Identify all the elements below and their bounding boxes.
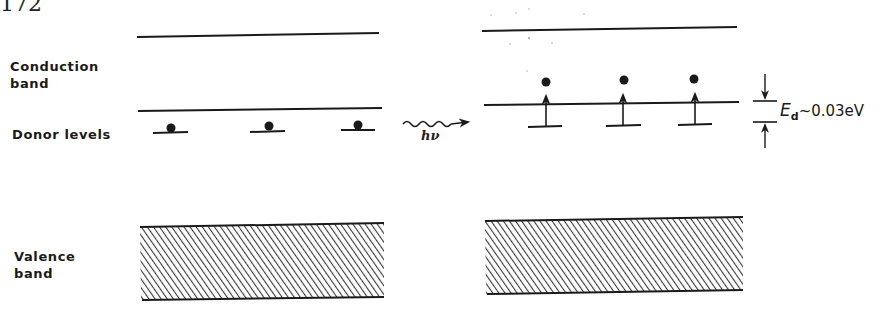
label-valence-line1: Valence <box>14 248 75 265</box>
electron-dot <box>354 121 363 130</box>
valence-band <box>485 217 743 294</box>
valence-band <box>140 223 384 300</box>
photon-energy-label: hν <box>421 128 439 143</box>
energy-subscript: d <box>791 110 799 123</box>
label-conduction-band: Conduction band <box>10 58 99 92</box>
donor-level <box>153 124 188 134</box>
donor-level <box>341 121 375 131</box>
energy-gap-label: Ed~0.03eV <box>780 100 864 120</box>
label-valence-line2: band <box>14 265 75 282</box>
right-panel <box>482 8 777 294</box>
donor-level <box>250 122 285 133</box>
photon-wave-arrow-icon <box>403 122 468 127</box>
electron-dot <box>620 76 629 85</box>
conduction-band-bottom-edge <box>138 108 382 111</box>
label-valence-band: Valence band <box>14 248 75 282</box>
print-specks <box>490 8 584 71</box>
excited-donor <box>606 76 641 127</box>
conduction-band-top-edge <box>137 33 379 37</box>
excited-donor <box>528 78 562 128</box>
electron-dot <box>167 124 176 133</box>
electron-dot <box>690 75 699 84</box>
conduction-band-top-edge <box>482 27 737 31</box>
excited-donor <box>678 75 712 126</box>
band-diagram: 172 <box>0 0 885 309</box>
label-donor-levels: Donor levels <box>12 126 111 143</box>
electron-dot <box>542 78 551 87</box>
left-panel <box>137 33 384 300</box>
energy-gap-dimension-icon <box>753 74 777 148</box>
label-conduction-line2: band <box>10 75 99 92</box>
energy-symbol: E <box>780 100 791 120</box>
label-conduction-line1: Conduction <box>10 58 99 75</box>
electron-dot <box>265 122 274 131</box>
energy-value: ~0.03eV <box>799 102 864 120</box>
conduction-band-bottom-edge <box>484 102 739 105</box>
